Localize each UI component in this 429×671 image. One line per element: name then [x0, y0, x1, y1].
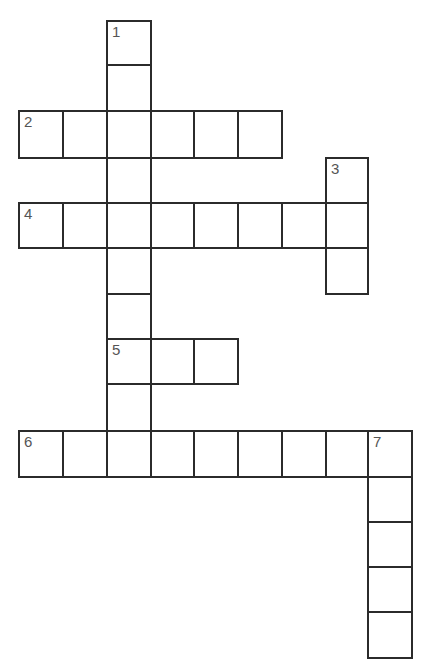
crossword-cell[interactable]: [281, 202, 327, 249]
crossword-cell[interactable]: [237, 110, 283, 159]
clue-number: 7: [373, 434, 381, 449]
crossword-cell[interactable]: 6: [18, 430, 64, 478]
crossword-cell[interactable]: [367, 566, 413, 613]
crossword-cell[interactable]: [281, 430, 327, 478]
crossword-cell[interactable]: [325, 202, 369, 249]
crossword-cell[interactable]: [325, 430, 369, 478]
clue-number: 5: [112, 342, 120, 357]
crossword-cell[interactable]: [193, 338, 239, 385]
crossword-cell[interactable]: [62, 202, 108, 249]
crossword-cell[interactable]: 2: [18, 110, 64, 159]
clue-number: 2: [24, 114, 32, 129]
crossword-cell[interactable]: [150, 338, 195, 385]
crossword-cell[interactable]: [106, 247, 152, 295]
crossword-cell[interactable]: [106, 110, 152, 159]
crossword-cell[interactable]: [62, 430, 108, 478]
clue-number: 6: [24, 434, 32, 449]
crossword-cell[interactable]: [367, 476, 413, 523]
crossword-cell[interactable]: [193, 110, 239, 159]
crossword-cell[interactable]: 3: [325, 157, 369, 204]
crossword-cell[interactable]: [325, 247, 369, 295]
crossword-cell[interactable]: [150, 430, 195, 478]
crossword-cell[interactable]: [106, 202, 152, 249]
crossword-cell[interactable]: [193, 430, 239, 478]
crossword-cell[interactable]: 1: [106, 20, 152, 66]
crossword-cell[interactable]: 4: [18, 202, 64, 249]
crossword-cell[interactable]: [62, 110, 108, 159]
clue-number: 3: [331, 161, 339, 176]
crossword-cell[interactable]: [367, 611, 413, 659]
crossword-cell[interactable]: 7: [367, 430, 413, 478]
crossword-cell[interactable]: 5: [106, 338, 152, 385]
crossword-cell[interactable]: [237, 202, 283, 249]
crossword-cell[interactable]: [150, 202, 195, 249]
crossword-cell[interactable]: [367, 521, 413, 568]
crossword-cell[interactable]: [150, 110, 195, 159]
clue-number: 4: [24, 206, 32, 221]
crossword-cell[interactable]: [106, 383, 152, 432]
crossword-cell[interactable]: [106, 157, 152, 204]
crossword-cell[interactable]: [106, 293, 152, 340]
crossword-cell[interactable]: [193, 202, 239, 249]
clue-number: 1: [112, 24, 120, 39]
crossword-cell[interactable]: [106, 64, 152, 112]
crossword-cell[interactable]: [237, 430, 283, 478]
crossword-cell[interactable]: [106, 430, 152, 478]
